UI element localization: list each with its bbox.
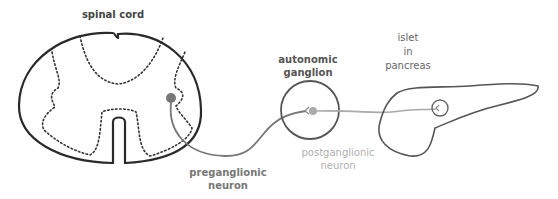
label-post-line2: neuron bbox=[320, 160, 355, 171]
pancreas-outline bbox=[379, 84, 538, 156]
autonomic-pathway-diagram: spinal cord autonomic ganglion islet in … bbox=[0, 0, 558, 199]
synapse-terminal bbox=[305, 107, 309, 114]
label-post-line1: postganglionic bbox=[301, 147, 374, 158]
label-pre-line2: neuron bbox=[208, 180, 248, 191]
preganglionic-cell-body bbox=[166, 93, 176, 103]
label-islet-line3: pancreas bbox=[385, 60, 431, 71]
islet-synapse-terminal bbox=[436, 105, 439, 111]
islet-outline bbox=[432, 100, 448, 116]
preganglionic-axon bbox=[171, 103, 306, 156]
label-islet-line2: in bbox=[403, 46, 412, 57]
postganglionic-axon bbox=[317, 109, 436, 113]
label-ganglion-line1: autonomic bbox=[278, 54, 337, 65]
label-ganglion-line2: ganglion bbox=[283, 67, 332, 78]
label-pre-line1: preganglionic bbox=[189, 167, 266, 178]
label-spinal-cord: spinal cord bbox=[82, 9, 144, 20]
label-islet-line1: islet bbox=[398, 32, 419, 43]
postganglionic-cell-body bbox=[309, 107, 317, 115]
